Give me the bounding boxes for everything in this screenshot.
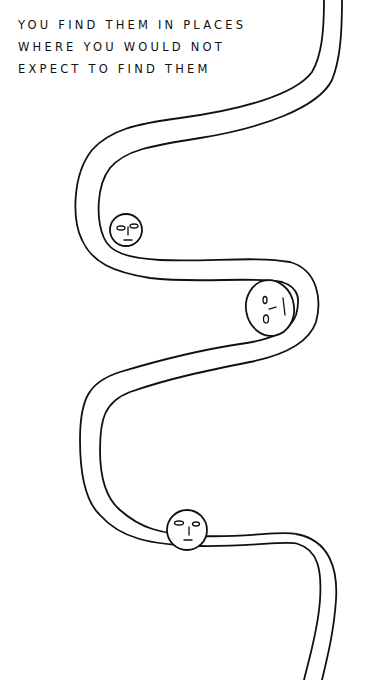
face-head (110, 214, 142, 246)
bottom-face (167, 510, 207, 550)
top-face (110, 214, 142, 246)
winding-path-illustration (0, 0, 372, 680)
path-edge-inner (99, 0, 342, 680)
face-head (167, 510, 207, 550)
path-edge-outer (75, 0, 324, 680)
